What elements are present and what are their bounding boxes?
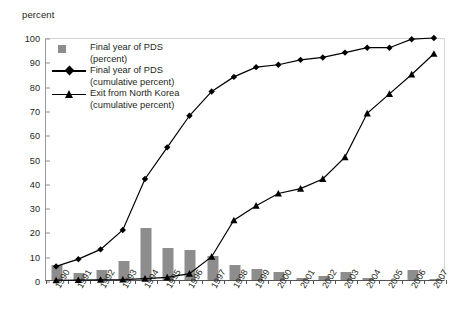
- y-axis-tick-mark: [46, 184, 50, 185]
- chart-container: percent 0102030405060708090100 Final yea…: [0, 0, 458, 329]
- y-axis-tick-label: 40: [30, 180, 46, 190]
- x-axis-tick-mark: [46, 280, 47, 284]
- x-axis-tick-mark: [313, 280, 314, 284]
- y-axis-tick-mark: [46, 63, 50, 64]
- x-axis-tick-mark: [424, 280, 425, 284]
- x-axis-tick-mark: [90, 280, 91, 284]
- diamond-line-icon: [52, 65, 90, 77]
- y-axis-title: percent: [22, 9, 54, 20]
- y-axis-tick-mark: [46, 136, 50, 137]
- x-axis-tick-mark: [290, 280, 291, 284]
- y-axis-tick-mark: [46, 87, 50, 88]
- y-axis-tick-label: 30: [30, 204, 46, 214]
- y-axis-tick-label: 0: [35, 277, 46, 287]
- y-axis-tick-label: 90: [30, 58, 46, 68]
- y-axis-tick-mark: [46, 39, 50, 40]
- legend-item-bar-sublabel: (percent): [90, 54, 179, 66]
- legend-item-exit-cumulative-label: Exit from North Korea: [90, 88, 179, 100]
- y-axis-tick-label: 60: [30, 131, 46, 141]
- chart-legend: Final year of PDS (percent) Final year o…: [52, 42, 179, 112]
- x-axis-tick-mark: [224, 280, 225, 284]
- legend-item-bar: Final year of PDS: [52, 42, 179, 54]
- x-axis-tick-mark: [357, 280, 358, 284]
- y-axis-tick-mark: [46, 209, 50, 210]
- y-axis-tick-label: 70: [30, 107, 46, 117]
- x-axis-tick-mark: [268, 280, 269, 284]
- y-axis-tick-mark: [46, 257, 50, 258]
- triangle-line-icon: [52, 88, 90, 100]
- x-axis-tick-mark: [157, 280, 158, 284]
- legend-item-pds-cumulative-label: Final year of PDS: [90, 65, 163, 77]
- x-axis-tick-mark: [68, 280, 69, 284]
- x-axis-tick-mark: [246, 280, 247, 284]
- legend-item-bar-label: Final year of PDS: [90, 42, 163, 54]
- x-axis-tick-mark: [135, 280, 136, 284]
- y-axis-tick-label: 100: [25, 34, 46, 44]
- y-axis-tick-mark: [46, 160, 50, 161]
- x-axis-tick-mark: [179, 280, 180, 284]
- legend-item-exit-cumulative-sublabel: (cumulative percent): [90, 100, 179, 112]
- x-axis-tick-mark: [113, 280, 114, 284]
- y-axis-tick-label: 10: [30, 253, 46, 263]
- x-axis-tick-mark: [202, 280, 203, 284]
- x-axis-tick-mark: [379, 280, 380, 284]
- y-axis-tick-label: 20: [30, 228, 46, 238]
- x-axis-tick-mark: [402, 280, 403, 284]
- legend-item-pds-cumulative-sublabel: (cumulative percent): [90, 77, 179, 89]
- y-axis-tick-label: 80: [30, 83, 46, 93]
- square-swatch-icon: [52, 42, 90, 54]
- legend-item-exit-cumulative: Exit from North Korea: [52, 88, 179, 100]
- y-axis-tick-mark: [46, 233, 50, 234]
- y-axis-tick-mark: [46, 111, 50, 112]
- legend-item-pds-cumulative: Final year of PDS: [52, 65, 179, 77]
- x-axis-tick-mark: [335, 280, 336, 284]
- y-axis-tick-label: 50: [30, 156, 46, 166]
- x-axis-tick-mark: [446, 280, 447, 284]
